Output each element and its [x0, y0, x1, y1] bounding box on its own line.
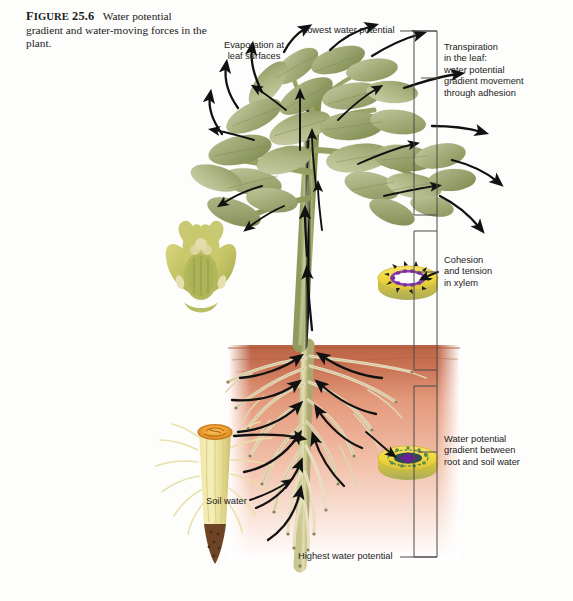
label-root-soil-gradient: Water potential gradient between root an…	[444, 434, 570, 468]
label-transpiration: Transpiration in the leaf: water potenti…	[444, 42, 570, 99]
soil-region	[228, 345, 460, 560]
figure-number: FIGURE 25.6	[26, 9, 94, 23]
root-tip-cross-section	[156, 422, 274, 564]
plant-stem	[230, 74, 436, 345]
leaf-canopy	[188, 40, 477, 233]
figure-canvas: FIGURE 25.6 Water potential gradient and…	[0, 0, 573, 601]
label-highest-water-potential: Highest water potential	[298, 551, 410, 562]
label-evaporation: Evaporation at leaf surfaces	[202, 40, 306, 63]
annotation-leaders	[400, 31, 437, 557]
root-xylem-disc	[378, 446, 438, 480]
stem-xylem-disc	[378, 261, 438, 300]
flower-cross-section	[166, 221, 237, 313]
label-lowest-water-potential: Lowest water potential	[302, 25, 412, 36]
figure-caption: FIGURE 25.6 Water potential gradient and…	[26, 10, 208, 51]
root-system	[226, 345, 426, 568]
label-cohesion-tension: Cohesion and tension in xylem	[444, 255, 564, 289]
label-soil-water: Soil water	[206, 496, 268, 507]
